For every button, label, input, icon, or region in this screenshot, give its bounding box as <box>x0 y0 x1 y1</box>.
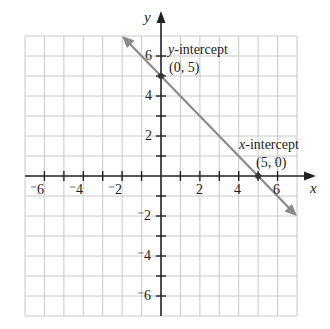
y-intercept-annotation: y-intercept <box>168 43 228 57</box>
y-tick-label: 4 <box>145 89 152 103</box>
y-tick-label: 6 <box>145 49 152 63</box>
y-intercept-text: -intercept <box>174 42 228 57</box>
line-series <box>122 36 297 216</box>
y-axis-arrow-icon <box>157 11 166 23</box>
x-tick-label: ⁻6 <box>30 183 44 197</box>
y-intercept-point <box>158 73 164 79</box>
x-tick-label: ⁻4 <box>69 183 83 197</box>
y-tick-label: ⁻4 <box>137 249 151 263</box>
x-tick-label: 6 <box>273 183 280 197</box>
x-tick-label: 4 <box>234 183 241 197</box>
y-axis-label: y <box>144 10 151 24</box>
y-tick-label: ⁻2 <box>137 209 151 223</box>
x-intercept-coord: (5, 0) <box>256 156 286 170</box>
x-tick-label: 2 <box>196 183 203 197</box>
y-tick-label: 2 <box>145 129 152 143</box>
x-tick-label: ⁻2 <box>108 183 122 197</box>
y-intercept-coord: (0, 5) <box>169 61 199 75</box>
x-intercept-annotation: x-intercept <box>239 138 299 152</box>
x-axis-label: x <box>310 181 317 195</box>
y-tick-label: ⁻6 <box>137 289 151 303</box>
x-intercept-text: -intercept <box>245 137 299 152</box>
x-intercept-point <box>255 173 261 179</box>
